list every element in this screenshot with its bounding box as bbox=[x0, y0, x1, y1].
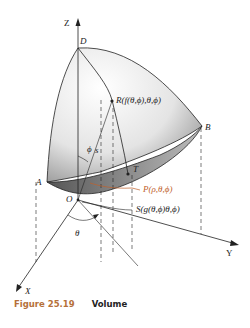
volume-diagram: Z D R(f(θ,ϕ),θ,ϕ) ϕ s B T A P(ρ,θ,ϕ) O S… bbox=[0, 0, 250, 328]
point-r-dot bbox=[110, 99, 113, 102]
x-axis bbox=[18, 200, 78, 288]
label-p: P(ρ,θ,ϕ) bbox=[142, 184, 172, 194]
z-arrow-icon bbox=[76, 18, 81, 26]
y-arrow-icon bbox=[230, 240, 239, 246]
label-s: S(g(θ,ϕ)θ,ϕ) bbox=[136, 204, 180, 214]
label-s-arc: s bbox=[95, 145, 99, 155]
label-y: Y bbox=[226, 248, 233, 258]
x-arrow-icon bbox=[16, 284, 22, 292]
figure-number: Figure 25.19 bbox=[14, 299, 75, 309]
figure-caption: Figure 25.19 Volume bbox=[14, 299, 127, 309]
label-a: A bbox=[35, 177, 42, 187]
point-o-dot bbox=[77, 199, 80, 202]
label-b: B bbox=[205, 122, 211, 132]
label-theta: θ bbox=[75, 228, 80, 238]
label-d: D bbox=[79, 36, 87, 46]
label-o: O bbox=[66, 194, 73, 204]
upper-surface bbox=[47, 48, 202, 182]
label-phi: ϕ bbox=[87, 144, 92, 154]
point-t-dot bbox=[126, 172, 129, 175]
label-x: X bbox=[24, 286, 31, 296]
figure-title: Volume bbox=[92, 299, 128, 309]
label-r: R(f(θ,ϕ),θ,ϕ) bbox=[115, 95, 161, 105]
label-z: Z bbox=[64, 18, 70, 28]
